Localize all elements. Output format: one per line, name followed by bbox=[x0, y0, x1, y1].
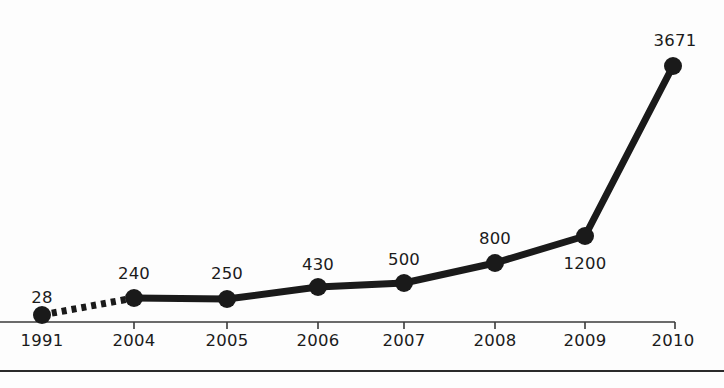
data-point-marker[interactable] bbox=[218, 290, 236, 308]
data-point-marker[interactable] bbox=[309, 278, 327, 296]
data-value-label: 3671 bbox=[654, 33, 697, 50]
data-value-label: 800 bbox=[479, 231, 511, 248]
data-value-label: 500 bbox=[388, 252, 420, 269]
data-point-marker[interactable] bbox=[576, 227, 594, 245]
line-segment-dashed bbox=[42, 298, 134, 315]
x-tick-label: 2006 bbox=[297, 333, 340, 350]
x-tick-label: 2008 bbox=[474, 333, 517, 350]
data-point-marker[interactable] bbox=[664, 57, 682, 75]
x-axis-ticks bbox=[134, 322, 675, 329]
data-value-label: 430 bbox=[302, 257, 334, 274]
data-value-label: 1200 bbox=[564, 256, 607, 273]
line-segment bbox=[227, 287, 318, 299]
footer-divider bbox=[0, 370, 724, 372]
x-tick-label: 2005 bbox=[206, 333, 249, 350]
data-value-label: 28 bbox=[31, 290, 52, 307]
data-value-label: 240 bbox=[118, 266, 150, 283]
x-tick-label: 2010 bbox=[652, 333, 695, 350]
x-tick-label: 2004 bbox=[113, 333, 156, 350]
line-segment bbox=[134, 298, 227, 299]
data-point-marker[interactable] bbox=[125, 289, 143, 307]
x-axis bbox=[0, 322, 675, 329]
chart-plot-area bbox=[0, 0, 724, 388]
x-tick-label: 2009 bbox=[564, 333, 607, 350]
line-segment bbox=[318, 283, 404, 287]
data-value-label: 250 bbox=[211, 266, 243, 283]
x-tick-label: 1991 bbox=[21, 333, 64, 350]
line-segment bbox=[585, 66, 673, 236]
x-tick-label: 2007 bbox=[383, 333, 426, 350]
line-chart: 2824025043050080012003671 19912004200520… bbox=[0, 0, 724, 388]
data-point-marker[interactable] bbox=[486, 254, 504, 272]
data-point-marker[interactable] bbox=[33, 306, 51, 324]
data-point-marker[interactable] bbox=[395, 274, 413, 292]
